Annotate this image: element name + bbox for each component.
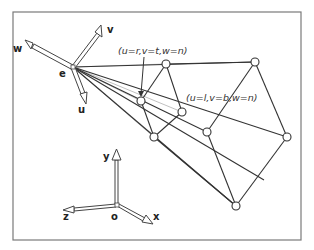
eye-origin-label: e xyxy=(59,68,66,79)
far-right-vertex xyxy=(283,133,291,141)
frustum-diagram: e v w u y z o x (u=r,v=t,w=n) (u=l,v=b,w… xyxy=(0,0,314,250)
x-axis-label: x xyxy=(153,211,160,222)
annotation-near-bottom-left: (u=l,v=b,w=n) xyxy=(186,92,257,103)
near-right-top-vertex xyxy=(137,97,145,105)
near-right-vertex xyxy=(178,108,186,116)
world-origin-label: o xyxy=(111,211,118,222)
w-axis-label: w xyxy=(13,43,22,54)
near-top-vertex xyxy=(162,60,170,68)
far-bottom-vertex xyxy=(232,202,240,210)
annotation-near-top-right: (u=r,v=t,w=n) xyxy=(118,45,188,56)
z-axis-label: z xyxy=(63,211,69,222)
v-axis-label: v xyxy=(107,24,114,35)
near-bottom-vertex xyxy=(150,133,158,141)
eye-origin-marker xyxy=(71,65,75,69)
y-axis-label: y xyxy=(103,151,110,162)
u-axis-label: u xyxy=(78,104,85,115)
far-top-vertex xyxy=(251,58,259,66)
world-origin-marker xyxy=(115,203,119,207)
far-left-vertex xyxy=(203,128,211,136)
